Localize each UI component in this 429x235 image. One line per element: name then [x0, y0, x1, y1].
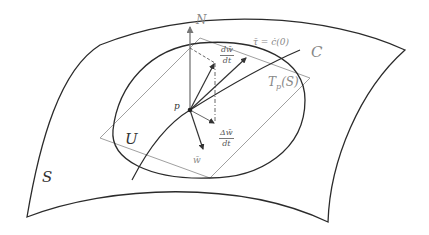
tangent-plane — [100, 38, 310, 178]
dashed-projection-line — [190, 48, 215, 63]
point-p — [188, 108, 193, 113]
label-dw-dt-numerator: dw̄ — [220, 46, 234, 56]
label-surface-s: S — [42, 170, 52, 185]
surface-outline — [27, 19, 405, 222]
label-w: w̄ — [193, 156, 201, 165]
label-tau: τ̄ = ċ(0) — [253, 38, 289, 47]
label-curve: C — [311, 45, 322, 60]
curve-c — [132, 50, 300, 180]
label-region-u: U — [125, 132, 138, 147]
label-tangent-plane-main: T — [268, 75, 276, 89]
label-tangent-plane-arg: (S) — [281, 75, 299, 89]
label-delta-w-dt: Δw̄ dt — [219, 129, 234, 148]
label-tangent-plane: Tp(S) — [268, 76, 299, 91]
label-point-p: p — [174, 102, 180, 111]
label-delta-w-dt-denominator: dt — [222, 139, 230, 148]
label-normal: N — [196, 14, 207, 26]
diagram-canvas — [0, 0, 429, 235]
region-u-outline — [113, 42, 305, 178]
label-dw-dt-denominator: dt — [223, 56, 231, 65]
label-delta-w-dt-numerator: Δw̄ — [219, 129, 234, 139]
tau-vector — [190, 58, 246, 110]
label-dw-dt: dw̄ dt — [220, 46, 234, 65]
